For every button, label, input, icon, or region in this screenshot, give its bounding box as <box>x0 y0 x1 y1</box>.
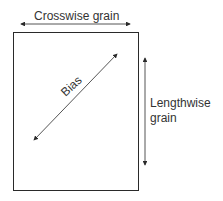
fabric-rectangle <box>14 33 139 191</box>
bias-arrow <box>34 54 117 140</box>
lengthwise-label-line1: Lengthwise <box>150 97 211 110</box>
crosswise-grain-label: Crosswise grain <box>34 10 119 23</box>
lengthwise-label-line2: grain <box>150 112 177 125</box>
